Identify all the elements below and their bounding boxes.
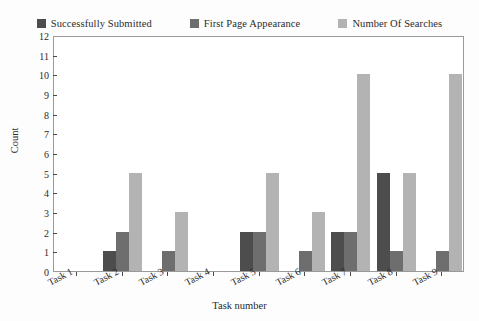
legend-item-label: First Page Appearance xyxy=(204,18,301,29)
legend-item[interactable]: First Page Appearance xyxy=(190,18,301,29)
y-axis-tick-label: 2 xyxy=(27,227,49,238)
x-axis-tick-mark xyxy=(76,272,77,276)
y-axis-tick-label: 9 xyxy=(27,90,49,101)
y-axis-tick-mark xyxy=(53,115,57,116)
bar xyxy=(162,251,175,271)
y-axis-title: Count xyxy=(9,111,20,171)
bar xyxy=(312,212,325,271)
y-axis-tick-mark xyxy=(53,154,57,155)
x-axis-tick-mark xyxy=(350,272,351,276)
legend-item[interactable]: Number Of Searches xyxy=(338,18,442,29)
bar xyxy=(377,173,390,271)
y-axis-tick-mark xyxy=(53,252,57,253)
legend-swatch-successfully-submitted xyxy=(37,19,46,28)
y-axis-tick-label: 12 xyxy=(27,31,49,42)
y-axis-tick-mark xyxy=(53,134,57,135)
x-axis-title: Task number xyxy=(0,300,479,311)
bar xyxy=(436,251,449,271)
legend-swatch-number-of-searches xyxy=(338,19,347,28)
y-axis-tick-label: 0 xyxy=(27,267,49,278)
bar xyxy=(175,212,188,271)
y-axis-tick-label: 7 xyxy=(27,129,49,140)
chart-root: Successfully SubmittedFirst Page Appeara… xyxy=(0,0,479,321)
y-axis-tick-label: 5 xyxy=(27,168,49,179)
x-axis-tick-mark xyxy=(396,272,397,276)
y-axis-tick-label: 8 xyxy=(27,109,49,120)
bar xyxy=(266,173,279,271)
chart-legend: Successfully SubmittedFirst Page Appeara… xyxy=(0,15,479,31)
x-axis-tick-mark xyxy=(441,272,442,276)
bar xyxy=(449,74,462,271)
y-axis-tick-label: 10 xyxy=(27,70,49,81)
y-axis-tick-mark xyxy=(53,233,57,234)
y-axis-tick-mark xyxy=(53,75,57,76)
bar xyxy=(299,251,312,271)
x-axis-tick-mark xyxy=(304,272,305,276)
legend-item-label: Successfully Submitted xyxy=(51,18,152,29)
y-axis-tick-mark xyxy=(53,174,57,175)
legend-swatch-first-page-appearance xyxy=(190,19,199,28)
y-axis-tick-label: 3 xyxy=(27,208,49,219)
y-axis-tick-label: 6 xyxy=(27,149,49,160)
legend-item[interactable]: Successfully Submitted xyxy=(37,18,152,29)
y-axis-tick-labels: 0123456789101112 xyxy=(24,36,49,272)
plot-area xyxy=(53,36,464,272)
x-axis-tick-mark xyxy=(167,272,168,276)
y-axis-tick-label: 1 xyxy=(27,247,49,258)
bar xyxy=(390,251,403,271)
y-axis-tick-label: 4 xyxy=(27,188,49,199)
x-axis-tick-mark xyxy=(122,272,123,276)
bars-container xyxy=(54,37,463,271)
y-axis-tick-mark xyxy=(53,213,57,214)
bar xyxy=(344,232,357,271)
x-axis-tick-mark xyxy=(259,272,260,276)
y-axis-tick-mark xyxy=(53,56,57,57)
y-axis-tick-mark xyxy=(53,95,57,96)
bar xyxy=(403,173,416,271)
legend-item-label: Number Of Searches xyxy=(352,18,442,29)
y-axis-tick-label: 11 xyxy=(27,50,49,61)
bar xyxy=(129,173,142,271)
x-axis-tick-mark xyxy=(213,272,214,276)
bar xyxy=(357,74,370,271)
y-axis-tick-mark xyxy=(53,193,57,194)
bar xyxy=(253,232,266,271)
bar xyxy=(116,232,129,271)
